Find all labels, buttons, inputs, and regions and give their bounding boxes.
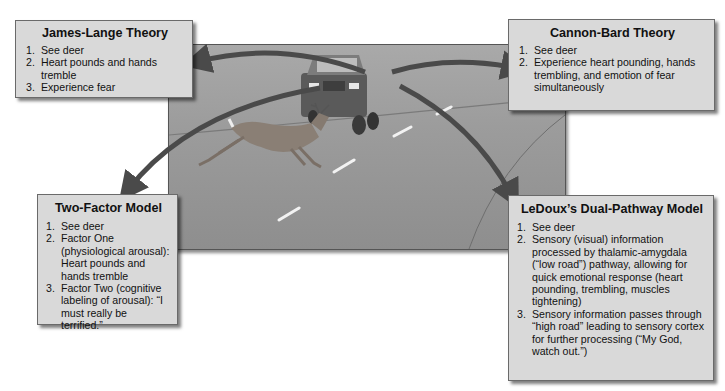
james-lange-title: James-Lange Theory	[26, 26, 184, 41]
list-item: 3.Factor Two (cognitive labeling of arou…	[46, 282, 171, 332]
list-item: 1.See deer	[519, 44, 706, 56]
list-item: 3.Sensory information passes through “hi…	[517, 308, 707, 358]
cannon-bard-title: Cannon-Bard Theory	[519, 26, 706, 41]
ledoux-list: 1.See deer 2.Sensory (visual) informatio…	[517, 221, 707, 357]
two-factor-list: 1.See deer 2.Factor One (physiological a…	[46, 220, 171, 332]
list-item: 1.See deer	[26, 44, 184, 56]
two-factor-box: Two-Factor Model 1.See deer 2.Factor One…	[37, 194, 178, 325]
road-scene-illustration	[168, 44, 566, 250]
cannon-bard-list: 1.See deer 2.Experience heart pounding, …	[519, 44, 706, 94]
ledoux-box: LeDoux’s Dual-Pathway Model 1.See deer 2…	[508, 195, 714, 381]
james-lange-box: James-Lange Theory 1.See deer 2.Heart po…	[15, 20, 193, 98]
james-lange-list: 1.See deer 2.Heart pounds and hands trem…	[26, 44, 184, 94]
list-item: 2.Factor One (physiological arousal): He…	[46, 232, 171, 282]
ledoux-title: LeDoux’s Dual-Pathway Model	[517, 202, 707, 217]
two-factor-title: Two-Factor Model	[46, 201, 171, 216]
list-item: 1.See deer	[517, 221, 707, 233]
list-item: 2.Heart pounds and hands tremble	[26, 56, 184, 81]
list-item: 2.Sensory (visual) information processed…	[517, 233, 707, 307]
list-item: 2.Experience heart pounding, hands tremb…	[519, 56, 706, 93]
cannon-bard-box: Cannon-Bard Theory 1.See deer 2.Experien…	[508, 19, 715, 111]
list-item: 1.See deer	[46, 220, 171, 232]
road-scene-graphic	[169, 45, 565, 249]
list-item: 3.Experience fear	[26, 81, 184, 93]
